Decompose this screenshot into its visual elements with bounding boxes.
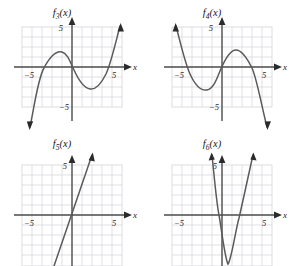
graph-svg-f4: −5 5 5 −5 x f4(x) — [150, 0, 299, 133]
y-tick-neg5-f3: −5 — [59, 102, 69, 112]
graph-panel-f5: −5 5 5 x f5(x) — [0, 133, 149, 266]
function-label-f3: f3(x) — [53, 7, 72, 21]
x-tick-5-f5: 5 — [112, 218, 116, 228]
x-axis-label-f3: x — [132, 62, 137, 72]
y-tick-5-f4: 5 — [209, 23, 213, 33]
y-tick-neg5-f4: −5 — [209, 102, 219, 112]
x-tick-neg5-f3: −5 — [24, 70, 34, 80]
graph-panel-f3: −5 5 5 −5 x f3(x) — [0, 0, 149, 133]
graph-svg-f6: −5 5 5 x f6(x) — [150, 133, 299, 266]
graph-svg-f3: −5 5 5 −5 x f3(x) — [0, 0, 149, 133]
x-tick-5-f4: 5 — [262, 70, 266, 80]
graph-svg-f5: −5 5 5 x f5(x) — [0, 133, 149, 266]
graph-panel-f4: −5 5 5 −5 x f4(x) — [150, 0, 299, 133]
function-label-f6: f6(x) — [203, 138, 222, 152]
x-axis-label-f5: x — [132, 210, 137, 220]
function-label-f5: f5(x) — [53, 138, 72, 152]
x-tick-neg5-f6: −5 — [174, 218, 184, 228]
x-tick-5-f3: 5 — [112, 70, 116, 80]
function-graphs-figure: −5 5 5 −5 x f3(x) — [0, 0, 299, 266]
graph-panel-f6: −5 5 5 x f6(x) — [150, 133, 299, 266]
y-tick-5-f5: 5 — [63, 161, 67, 171]
x-tick-neg5-f5: −5 — [24, 218, 34, 228]
x-tick-neg5-f4: −5 — [174, 70, 184, 80]
y-tick-5-f3: 5 — [59, 23, 63, 33]
x-axis-label-f6: x — [282, 210, 287, 220]
x-tick-5-f6: 5 — [262, 218, 266, 228]
function-label-f4: f4(x) — [203, 7, 222, 21]
x-axis-label-f4: x — [282, 62, 287, 72]
